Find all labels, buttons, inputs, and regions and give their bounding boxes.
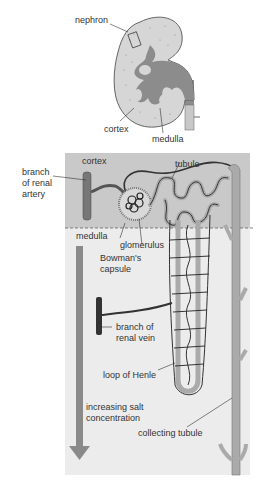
- label-glomerulus: glomerulus: [120, 240, 164, 250]
- label-bowmans-capsule-1: Bowman's: [100, 253, 141, 263]
- renal-artery-branch: [83, 172, 91, 220]
- label-cortex-region: cortex: [82, 156, 107, 166]
- label-kidney-cortex: cortex: [104, 124, 129, 134]
- label-renal-vein-2: renal vein: [116, 333, 155, 343]
- label-salt-2: concentration: [86, 413, 140, 423]
- label-kidney-medulla: medulla: [152, 134, 184, 144]
- label-renal-artery-3: artery: [22, 189, 45, 199]
- label-salt-1: increasing salt: [86, 402, 144, 412]
- label-loop-of-henle: loop of Henle: [103, 370, 156, 380]
- salt-gradient-arrow-shaft: [76, 246, 83, 449]
- label-nephron: nephron: [75, 15, 108, 25]
- label-collecting-tubule: collecting tubule: [138, 428, 203, 438]
- label-bowmans-capsule-2: capsule: [100, 264, 131, 274]
- label-renal-artery-1: branch: [22, 167, 50, 177]
- label-tubule: tubule: [175, 159, 200, 169]
- renal-vein-branch: [96, 297, 102, 335]
- label-renal-vein-1: branch of: [116, 322, 154, 332]
- label-medulla-region: medulla: [76, 231, 108, 241]
- label-renal-artery-2: of renal: [22, 178, 52, 188]
